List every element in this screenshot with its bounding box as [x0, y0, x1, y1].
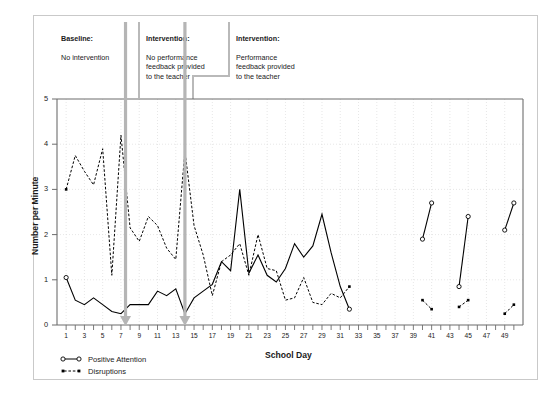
- x-tick-label: 3: [77, 332, 91, 339]
- series-disruptions: [65, 135, 515, 315]
- chart-svg: [0, 0, 552, 403]
- x-tick-label: 27: [297, 332, 311, 339]
- y-tick-label: 0: [32, 320, 48, 329]
- y-tick-label: 2: [32, 230, 48, 239]
- x-tick-label: 5: [96, 332, 110, 339]
- y-tick-label: 3: [32, 184, 48, 193]
- x-tick-label: 1: [59, 332, 73, 339]
- phase-change-arrows: [120, 22, 190, 326]
- x-tick-label: 37: [388, 332, 402, 339]
- x-tick-label: 11: [151, 332, 165, 339]
- x-tick-label: 15: [187, 332, 201, 339]
- y-tick-label: 4: [32, 139, 48, 148]
- y-tick-marks: [52, 99, 57, 325]
- y-tick-label: 5: [32, 94, 48, 103]
- x-tick-label: 41: [425, 332, 439, 339]
- y-tick-label: 1: [32, 275, 48, 284]
- x-tick-label: 17: [205, 332, 219, 339]
- x-tick-label: 7: [114, 332, 128, 339]
- x-tick-label: 47: [479, 332, 493, 339]
- x-tick-label: 13: [169, 332, 183, 339]
- x-tick-label: 39: [406, 332, 420, 339]
- x-tick-label: 31: [333, 332, 347, 339]
- x-tick-label: 23: [260, 332, 274, 339]
- legend-markers: [61, 357, 81, 373]
- plot-area: [0, 0, 552, 403]
- x-tick-label: 21: [242, 332, 256, 339]
- x-tick-label: 43: [443, 332, 457, 339]
- x-tick-label: 25: [278, 332, 292, 339]
- x-tick-label: 45: [461, 332, 475, 339]
- x-tick-label: 29: [315, 332, 329, 339]
- legend-label-positive-attention: Positive Attention: [88, 355, 146, 364]
- x-tick-label: 19: [224, 332, 238, 339]
- x-tick-label: 33: [352, 332, 366, 339]
- legend-label-disruptions: Disruptions: [88, 367, 126, 376]
- x-tick-label: 9: [132, 332, 146, 339]
- series-positive-attention: [64, 189, 516, 313]
- x-tick-label: 49: [498, 332, 512, 339]
- x-tick-label: 35: [370, 332, 384, 339]
- x-axis-title: School Day: [265, 350, 312, 360]
- figure-container: Baseline: No intervention Intervention: …: [0, 0, 552, 403]
- x-tick-marks: [66, 325, 514, 330]
